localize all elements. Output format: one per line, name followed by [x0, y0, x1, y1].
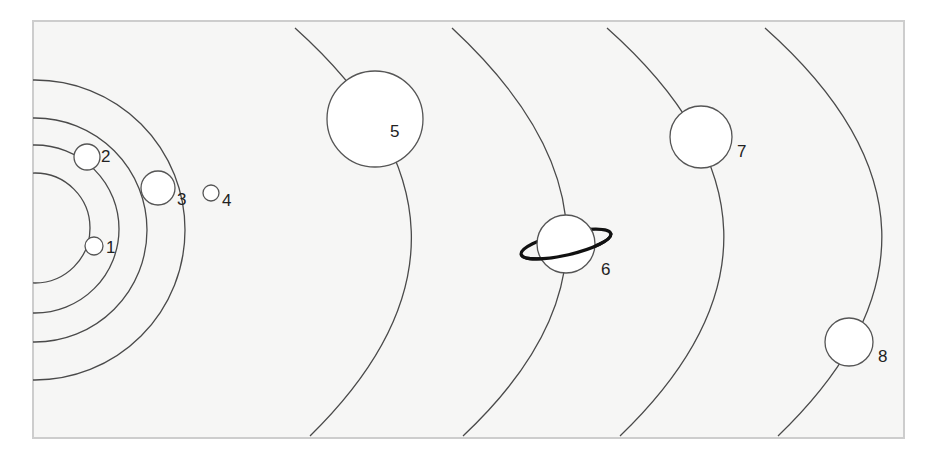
planet-4	[203, 185, 219, 201]
planet-body	[203, 185, 219, 201]
solar-system-diagram: 12345678	[0, 0, 925, 460]
planet-2	[74, 144, 100, 170]
planet-label-5: 5	[390, 122, 399, 141]
planet-label-3: 3	[177, 190, 186, 209]
planet-body	[327, 71, 423, 167]
planet-label-4: 4	[222, 191, 231, 210]
planet-body	[825, 318, 873, 366]
planet-label-6: 6	[601, 260, 610, 279]
planet-3	[141, 171, 175, 205]
planet-label-1: 1	[106, 238, 115, 257]
planet-label-8: 8	[878, 347, 887, 366]
planet-5	[327, 71, 423, 167]
planet-body	[537, 215, 595, 273]
planet-body	[670, 106, 732, 168]
diagram-frame	[33, 21, 904, 438]
planet-label-7: 7	[737, 142, 746, 161]
planet-body	[74, 144, 100, 170]
planet-body	[141, 171, 175, 205]
planet-7	[670, 106, 732, 168]
planet-body	[85, 237, 103, 255]
planet-1	[85, 237, 103, 255]
planet-8	[825, 318, 873, 366]
planet-label-2: 2	[101, 147, 110, 166]
